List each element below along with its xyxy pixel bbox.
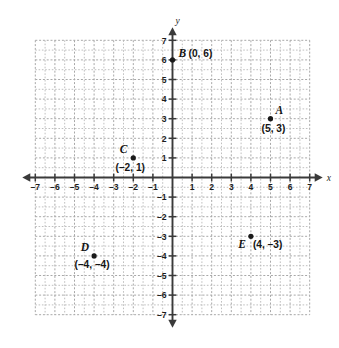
point-marker-c (131, 155, 136, 160)
y-tick-label: –6 (157, 290, 167, 300)
point-letter-c: C (120, 143, 128, 155)
x-axis-label: x (326, 173, 332, 183)
x-tick-label: –6 (50, 182, 60, 192)
point-marker-e (248, 234, 253, 239)
y-axis-label: y (175, 16, 181, 26)
y-tick-label: 3 (162, 114, 167, 124)
y-tick-label: –2 (157, 212, 167, 222)
point-letter-a: A (275, 104, 284, 116)
x-tick-label: –2 (129, 182, 139, 192)
point-marker-d (92, 253, 97, 258)
point-coords-e: (4, –3) (253, 239, 282, 250)
x-tick-label: –1 (148, 182, 158, 192)
x-tick-label: –5 (70, 182, 80, 192)
x-axis-arrow-left (22, 173, 30, 181)
y-tick-label: 2 (162, 134, 167, 144)
point-coords-a: (5, 3) (262, 123, 286, 134)
point-coords-b: (0, 6) (189, 48, 213, 59)
y-tick-label: 6 (162, 55, 167, 65)
x-tick-label: 4 (249, 182, 254, 192)
x-tick-label: 7 (307, 182, 312, 192)
axes (22, 27, 322, 327)
coordinate-plane-svg: –7–6–5–4–3–2–112345677654321–1–2–3–4–5–6… (0, 0, 339, 348)
x-tick-label: –3 (109, 182, 119, 192)
x-tick-label: –4 (89, 182, 99, 192)
point-letter-b: B (178, 47, 187, 59)
x-axis-arrow-right (315, 173, 323, 181)
y-tick-label: –7 (157, 310, 167, 320)
y-tick-label: –5 (157, 271, 167, 281)
y-tick-label: –4 (157, 251, 167, 261)
x-tick-label: 5 (268, 182, 273, 192)
x-tick-label: 1 (190, 182, 195, 192)
y-tick-label: 4 (162, 94, 167, 104)
point-coords-d: (–4, –4) (75, 259, 110, 270)
y-tick-label: 5 (162, 75, 167, 85)
point-marker-b (170, 57, 175, 62)
y-tick-label: –1 (157, 192, 167, 202)
point-coords-c: (–2, 1) (116, 162, 145, 173)
point-letter-e: E (237, 238, 246, 250)
x-tick-label: 2 (209, 182, 214, 192)
x-tick-label: 6 (288, 182, 293, 192)
y-tick-label: 7 (162, 36, 167, 46)
x-tick-label: 3 (229, 182, 234, 192)
y-axis-arrow-up (168, 27, 176, 35)
point-marker-a (268, 116, 273, 121)
point-letter-d: D (80, 241, 90, 253)
y-axis-arrow-down (168, 320, 176, 328)
coordinate-plane-figure: –7–6–5–4–3–2–112345677654321–1–2–3–4–5–6… (0, 0, 339, 348)
y-tick-label: –3 (157, 232, 167, 242)
x-tick-label: –7 (31, 182, 41, 192)
y-tick-label: 1 (162, 153, 167, 163)
